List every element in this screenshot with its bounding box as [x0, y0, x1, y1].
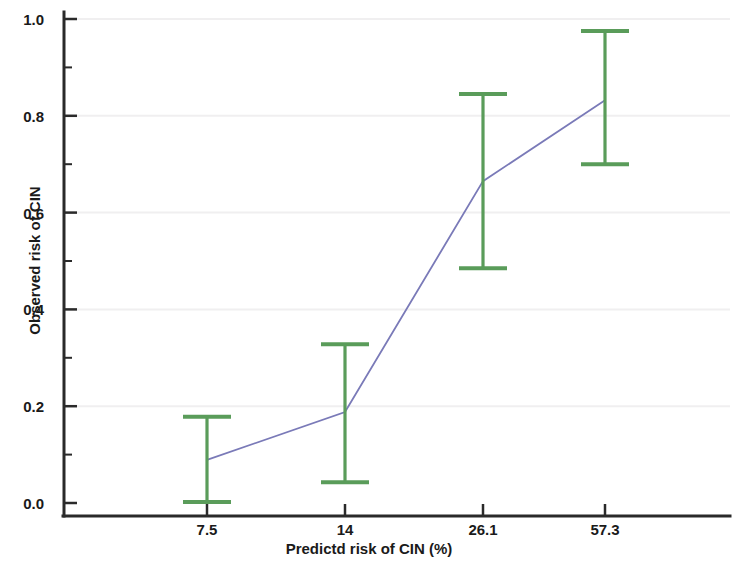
calibration-plot-figure: 0.00.20.40.60.81.0 7.51426.157.3 Predict… — [0, 0, 738, 565]
chart-canvas — [0, 0, 738, 565]
errorbar-26.1 — [459, 94, 507, 268]
errorbar-57.3 — [581, 31, 629, 164]
y-axis-tick-label-1: 0.2 — [0, 398, 44, 415]
y-axis-title: Observed risk of CIN — [26, 141, 43, 381]
errorbar-7.5 — [183, 417, 231, 502]
gridlines-group — [64, 19, 730, 406]
x-axis-title: Predictd risk of CIN (%) — [0, 540, 738, 557]
x-axis-tick-label-3: 57.3 — [590, 521, 619, 538]
y-axis-tick-label-4: 0.8 — [0, 107, 44, 124]
x-axis-tick-label-0: 7.5 — [197, 521, 218, 538]
errorbars-group — [183, 31, 629, 502]
x-axis-tick-label-2: 26.1 — [468, 521, 497, 538]
y-axis-tick-label-0: 0.0 — [0, 495, 44, 512]
axes-group — [63, 12, 730, 516]
errorbar-14 — [321, 344, 369, 482]
y-axis-tick-label-5: 1.0 — [0, 11, 44, 28]
x-axis-tick-label-1: 14 — [337, 521, 354, 538]
